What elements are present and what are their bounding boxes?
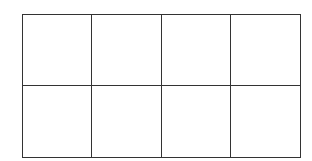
grid-cell-r2-c2 (92, 86, 161, 157)
grid-cell-r2-c4 (231, 86, 300, 157)
grid-cell-r1-c3 (162, 15, 231, 86)
grid-2x4 (22, 14, 301, 158)
grid-cell-r1-c4 (231, 15, 300, 86)
grid-cell-r2-c1 (23, 86, 92, 157)
grid-cell-r1-c1 (23, 15, 92, 86)
grid-cell-r1-c2 (92, 15, 161, 86)
grid-cell-r2-c3 (162, 86, 231, 157)
